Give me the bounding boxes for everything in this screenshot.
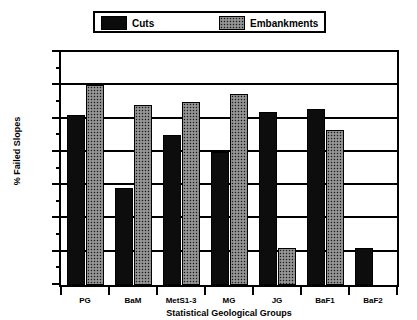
bar-embankments-mets1-3 <box>182 102 200 285</box>
x-axis-tick-label: MetS1-3 <box>166 296 197 305</box>
x-axis-tick <box>300 287 302 295</box>
bar-cuts-baf2 <box>355 248 373 285</box>
x-axis-tick-label: PG <box>79 296 91 305</box>
bar-cuts-mets1-3 <box>163 135 181 285</box>
x-axis-tick <box>156 287 158 295</box>
bar-cuts-mg <box>211 152 229 285</box>
plot-area <box>59 50 399 287</box>
bar-embankments-bam <box>134 105 152 285</box>
legend-label-cuts: Cuts <box>132 18 154 29</box>
bar-cuts-bam <box>115 188 133 285</box>
x-axis-tick-label: BaF2 <box>363 296 383 305</box>
bar-embankments-jg <box>278 248 296 285</box>
bar-cuts-pg <box>67 115 85 285</box>
bar-embankments-baf1 <box>326 130 344 285</box>
x-axis-tick <box>60 287 62 295</box>
x-axis-tick <box>204 287 206 295</box>
bar-embankments-pg <box>86 85 104 285</box>
x-axis-tick-label: BaM <box>125 296 142 305</box>
y-axis: 010203040506070 % Failed Slopes <box>0 0 59 320</box>
chart-legend: Cuts Embankments <box>93 11 326 33</box>
x-axis-tick-label: JG <box>272 296 283 305</box>
x-axis-title: Statistical Geological Groups <box>59 308 399 318</box>
bar-chart-figure: Cuts Embankments 010203040506070 % Faile… <box>0 0 417 320</box>
x-axis: PGBaMMetS1-3MGJGBaF1BaF2 Statistical Geo… <box>59 287 399 320</box>
legend-entry-cuts: Cuts <box>101 16 154 30</box>
x-axis-tick <box>348 287 350 295</box>
bar-cuts-jg <box>259 112 277 285</box>
bars-layer <box>61 52 397 285</box>
legend-label-embankments: Embankments <box>250 18 318 29</box>
x-axis-tick <box>252 287 254 295</box>
x-axis-tick <box>396 287 398 295</box>
bar-cuts-baf1 <box>307 109 325 285</box>
plot-inner <box>61 52 397 285</box>
x-axis-tick-label: MG <box>223 296 236 305</box>
y-axis-title: % Failed Slopes <box>12 96 22 206</box>
legend-entry-embankments: Embankments <box>219 16 318 30</box>
legend-swatch-cuts-icon <box>101 16 127 30</box>
bar-embankments-mg <box>230 94 248 285</box>
x-axis-tick <box>108 287 110 295</box>
x-axis-tick-label: BaF1 <box>315 296 335 305</box>
legend-swatch-embankments-icon <box>219 16 245 30</box>
